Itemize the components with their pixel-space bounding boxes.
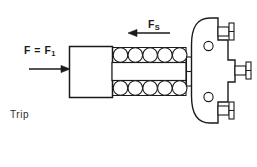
roller-bottom-5 (172, 81, 187, 96)
roller-bottom-4 (158, 81, 173, 96)
body-hole-lower (204, 92, 213, 101)
roller-bottom-1 (113, 81, 128, 96)
roller-top-4 (158, 48, 173, 63)
roller-bottom-3 (143, 81, 158, 96)
trip-label: Trip (10, 110, 29, 120)
stub-lower-right (218, 102, 234, 119)
roller-bottom-2 (128, 81, 143, 96)
roller-top-3 (143, 48, 158, 63)
stub-middle-right (235, 62, 251, 79)
roller-top-5 (172, 48, 187, 63)
mechanical-diagram: F = F1 FS Trip (0, 0, 257, 167)
roller-group-top (113, 48, 187, 63)
input-force-subscript: 1 (51, 49, 56, 58)
roller-top-2 (128, 48, 143, 63)
input-force-label: F = F1 (24, 45, 56, 56)
spring-force-text: F (148, 18, 155, 30)
input-force-text: F = F (24, 44, 51, 56)
actuator-block (70, 47, 113, 98)
roller-top-1 (113, 48, 128, 63)
spring-force-label: FS (148, 19, 160, 30)
spring-force-arrow (128, 29, 170, 36)
stub-upper-right (218, 23, 234, 40)
roller-group-bottom (113, 81, 187, 96)
diagram-canvas (0, 0, 257, 167)
spring-force-subscript: S (155, 23, 160, 32)
body-hole-upper (204, 41, 213, 50)
input-force-arrow (29, 65, 70, 72)
connecting-rod (112, 63, 186, 81)
